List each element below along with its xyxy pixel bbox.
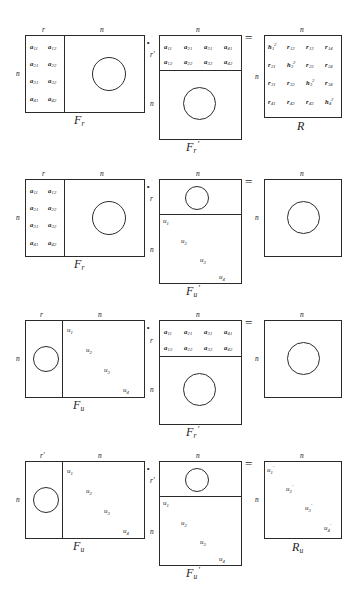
dim-label-r-prime: r' xyxy=(150,51,155,59)
matrix-entry: a11 xyxy=(30,44,38,51)
matrix-entry: a31 xyxy=(30,78,38,85)
circle-glyph xyxy=(287,201,320,234)
diagonal-entry: u2' xyxy=(286,486,293,493)
diagonal-entry: u3 xyxy=(200,257,206,264)
matrix-entry: r23 xyxy=(306,62,313,69)
dim-label-r-prime: r' xyxy=(40,452,45,460)
matrix-entry: a42 xyxy=(48,96,56,103)
matrix-entry: r43 xyxy=(306,99,313,106)
diagonal-entry: u4 xyxy=(123,528,129,535)
matrix-entry: a22 xyxy=(184,59,192,66)
dim-label-n: n xyxy=(196,26,200,34)
equation-row-2: r n n a11 a12 a21 a22 a31 a32 a41 a42 Fr… xyxy=(0,150,348,295)
circle-glyph xyxy=(287,342,320,375)
matrix-entry: a11 xyxy=(164,329,172,336)
dim-label-n-left: n xyxy=(150,246,154,254)
diagonal-entry: u4 xyxy=(123,387,129,394)
dim-label-n: n xyxy=(300,311,304,319)
circle-glyph xyxy=(183,87,216,120)
matrix-entry: a21 xyxy=(30,205,38,212)
operator-equals: = xyxy=(245,316,252,329)
dim-label-r-prime: r' xyxy=(150,477,155,485)
matrix-horizontal-divider xyxy=(159,214,242,215)
operator-multiply: · xyxy=(146,462,150,475)
figure-canvas: r n n a11 a12 a21 a22 a31 a32 a41 a42 Fr… xyxy=(0,0,348,603)
matrix-entry-diagonal: h32 xyxy=(306,80,314,87)
matrix-caption-fu-prime: Fu' xyxy=(186,567,200,579)
operator-equals: = xyxy=(245,175,252,188)
circle-glyph xyxy=(92,57,126,91)
dim-label-n: n xyxy=(98,311,102,319)
matrix-entry: a31 xyxy=(204,44,212,51)
matrix-entry: r42 xyxy=(287,99,294,106)
diagonal-entry: u2 xyxy=(181,238,187,245)
matrix-entry: a42 xyxy=(224,59,232,66)
matrix-entry: a32 xyxy=(48,222,56,229)
matrix-outline xyxy=(25,35,145,113)
matrix-entry: a21 xyxy=(30,61,38,68)
dim-label-r: r xyxy=(42,26,45,34)
dim-label-n: n xyxy=(196,452,200,460)
matrix-entry-diagonal: h12 xyxy=(268,44,276,51)
operator-multiply: · xyxy=(146,180,150,193)
diagonal-entry: u4' xyxy=(324,525,331,532)
matrix-entry: a32 xyxy=(204,345,212,352)
matrix-entry: a11 xyxy=(164,44,172,51)
matrix-entry: r32 xyxy=(287,80,294,87)
matrix-caption-r: R xyxy=(297,120,305,132)
diagonal-entry: u3 xyxy=(200,539,206,546)
matrix-horizontal-divider xyxy=(159,70,242,71)
dim-label-n-left: n xyxy=(255,496,259,504)
dim-label-n-left: n xyxy=(255,73,259,81)
matrix-caption-fr: Fr xyxy=(74,258,85,270)
circle-glyph xyxy=(185,186,209,210)
matrix-entry: r12 xyxy=(287,44,294,51)
matrix-entry: r31 xyxy=(268,80,275,87)
matrix-caption-fu: Fu xyxy=(73,540,84,552)
dim-label-n: n xyxy=(300,452,304,460)
diagonal-entry: u1' xyxy=(267,467,274,474)
matrix-entry: a31 xyxy=(30,222,38,229)
matrix-entry: r34 xyxy=(325,80,332,87)
matrix-entry: r21 xyxy=(268,62,275,69)
operator-multiply: · xyxy=(146,36,150,49)
dim-label-r: r xyxy=(150,337,153,345)
dim-label-n-left: n xyxy=(255,355,259,363)
matrix-entry: a32 xyxy=(204,59,212,66)
diagonal-entry: u2 xyxy=(181,520,187,527)
matrix-entry: r41 xyxy=(268,99,275,106)
diagonal-entry: u3' xyxy=(305,505,312,512)
operator-multiply: · xyxy=(146,321,150,334)
dim-label-n: n xyxy=(98,452,102,460)
matrix-vertical-divider xyxy=(62,461,63,539)
matrix-entry: r14 xyxy=(325,44,332,51)
circle-glyph xyxy=(183,373,216,406)
matrix-entry: r24 xyxy=(325,62,332,69)
diagonal-entry: u2 xyxy=(86,347,92,354)
matrix-entry: a12 xyxy=(164,59,172,66)
dim-label-n-left: n xyxy=(16,70,20,78)
circle-glyph xyxy=(185,468,209,492)
equation-row-4: r' n n u1 u2 u3 u4 Fu · n r' n u1 u2 u3 … xyxy=(0,430,348,603)
matrix-entry: a22 xyxy=(48,205,56,212)
matrix-entry: a31 xyxy=(204,329,212,336)
circle-glyph xyxy=(92,201,126,235)
matrix-entry: a41 xyxy=(224,44,232,51)
dim-label-n: n xyxy=(100,26,104,34)
matrix-entry-diagonal: h42 xyxy=(325,99,333,106)
circle-glyph xyxy=(33,346,59,372)
dim-label-n-left: n xyxy=(150,100,154,108)
dim-label-r: r xyxy=(42,170,45,178)
dim-label-n-left: n xyxy=(150,528,154,536)
equation-row-1: r n n a11 a12 a21 a22 a31 a32 a41 a42 Fr… xyxy=(0,0,348,150)
matrix-horizontal-divider xyxy=(159,356,242,357)
matrix-entry: a22 xyxy=(184,345,192,352)
operator-equals: = xyxy=(245,457,252,470)
dim-label-n-left: n xyxy=(255,214,259,222)
dim-label-n-left: n xyxy=(150,386,154,394)
dim-label-r: r xyxy=(150,195,153,203)
dim-label-n: n xyxy=(300,26,304,34)
dim-label-n: n xyxy=(100,170,104,178)
matrix-entry: a12 xyxy=(48,188,56,195)
matrix-entry: r13 xyxy=(306,44,313,51)
